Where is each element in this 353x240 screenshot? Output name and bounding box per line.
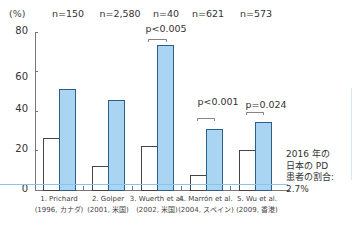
bar-4-blue (207, 130, 223, 191)
bar-5-blue (256, 123, 272, 191)
bar-1-blue (60, 90, 76, 191)
side-divider (351, 88, 352, 180)
bracket-5 (247, 113, 264, 116)
bar-3-blue (158, 46, 174, 191)
reference-note: 2016 年の 日本の PD 患者の割合: 2.7% (286, 149, 334, 195)
bar-1-white (44, 139, 60, 191)
x-label-5: 5. Wu et al. (2009, 香港) (226, 194, 288, 216)
bracket-3 (149, 40, 167, 43)
bar-4-white (191, 176, 207, 191)
bar-2-blue (109, 101, 125, 191)
bar-2-white (93, 167, 109, 191)
bracket-4 (198, 119, 215, 122)
